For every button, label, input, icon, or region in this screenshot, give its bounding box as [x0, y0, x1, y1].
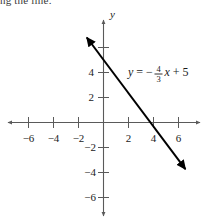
equation-lhs: y — [127, 65, 134, 79]
x-tick-label-6: 6 — [176, 132, 182, 144]
figure-container: ng the line. −6 −4 −2 2 4 6 — [0, 0, 208, 220]
x-tick-label-2: 2 — [126, 132, 132, 144]
x-tick-label--4: −4 — [48, 132, 60, 144]
equation-numerator: 4 — [156, 64, 161, 74]
x-tick-label--6: −6 — [23, 132, 35, 144]
y-tick-label-4: 4 — [89, 66, 95, 78]
x-tick-label-4: 4 — [151, 132, 157, 144]
equation-plus: + — [173, 65, 180, 79]
y-tick-label--2: −2 — [84, 141, 96, 153]
svg-text:x+5: x+5 — [164, 65, 189, 79]
line-segment — [87, 38, 186, 170]
y-tick-label-2: 2 — [89, 91, 95, 103]
equation-sign: − — [146, 65, 153, 79]
equation-variable: x — [164, 65, 171, 79]
equation-intercept: 5 — [183, 65, 189, 79]
coordinate-plane-graph: −6 −4 −2 2 4 6 4 2 −2 −4 −6 y — [0, 0, 208, 220]
y-axis-name-label: y — [109, 8, 115, 20]
equation-annotation: y=− 4 3 x+5 — [127, 64, 189, 84]
plotted-line — [87, 38, 186, 170]
y-tick-label--6: −6 — [84, 191, 96, 203]
y-tick-label--4: −4 — [84, 166, 96, 178]
equation-denominator: 3 — [156, 74, 160, 84]
svg-text:y=−: y=− — [127, 65, 153, 79]
equation-equals: = — [136, 65, 143, 79]
x-tick-label--2: −2 — [73, 132, 85, 144]
